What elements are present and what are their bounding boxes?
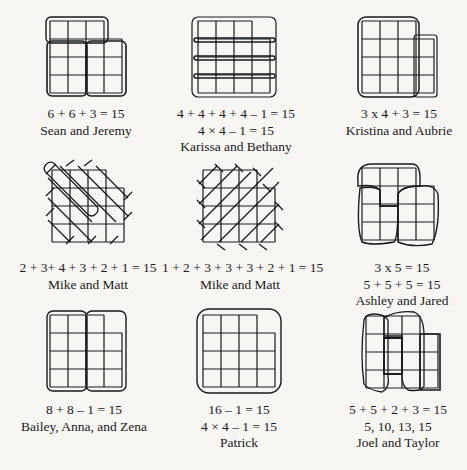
figure-sean-jeremy <box>46 17 126 96</box>
caption-sean-jeremy: 6 + 6 + 3 = 15 Sean and Jeremy <box>8 106 164 139</box>
caption-karissa-bethany: 4 + 4 + 4 + 4 – 1 = 15 4 × 4 – 1 = 15 Ka… <box>158 106 314 156</box>
equation: 4 × 4 – 1 = 15 <box>161 419 317 436</box>
caption-joel-taylor: 5 + 5 + 2 + 3 = 15 5, 10, 13, 15 Joel an… <box>320 402 467 452</box>
figure-mike-matt-1 <box>42 160 132 244</box>
equation: 6 + 6 + 3 = 15 <box>8 106 164 123</box>
student-names: Joel and Taylor <box>320 435 467 452</box>
student-names: Karissa and Bethany <box>158 139 314 156</box>
caption-bailey-anna-zena: 8 + 8 – 1 = 15 Bailey, Anna, and Zena <box>6 402 162 435</box>
student-names: Kristina and Aubrie <box>321 123 467 140</box>
equation: 5 + 5 + 5 = 15 <box>324 277 467 294</box>
equation: 3 x 4 + 3 = 15 <box>321 106 467 123</box>
figure-patrick <box>197 309 281 393</box>
equation: 4 × 4 – 1 = 15 <box>158 123 314 140</box>
figure-joel-taylor <box>362 312 440 392</box>
student-names: Mike and Matt <box>10 277 166 294</box>
equation: 3 x 5 = 15 <box>324 260 467 277</box>
student-names: Patrick <box>161 435 317 452</box>
figure-karissa-bethany <box>192 17 276 97</box>
figure-mike-matt-2 <box>197 164 283 250</box>
equation: 5 + 5 + 2 + 3 = 15 <box>320 402 467 419</box>
equation: 8 + 8 – 1 = 15 <box>6 402 162 419</box>
equation: 16 – 1 = 15 <box>161 402 317 419</box>
caption-kristina-aubrie: 3 x 4 + 3 = 15 Kristina and Aubrie <box>321 106 467 139</box>
caption-ashley-jared: 3 x 5 = 15 5 + 5 + 5 = 15 Ashley and Jar… <box>324 260 467 310</box>
equation: 4 + 4 + 4 + 4 – 1 = 15 <box>158 106 314 123</box>
equation: 2 + 3+ 4 + 3 + 2 + 1 = 15 <box>10 260 166 277</box>
figure-bailey-anna-zena <box>47 311 126 391</box>
student-names: Mike and Matt <box>162 277 318 294</box>
equation: 5, 10, 13, 15 <box>320 419 467 436</box>
figure-ashley-jared <box>358 164 439 246</box>
caption-patrick: 16 – 1 = 15 4 × 4 – 1 = 15 Patrick <box>161 402 317 452</box>
student-names: Sean and Jeremy <box>8 123 164 140</box>
caption-mike-matt-1: 2 + 3+ 4 + 3 + 2 + 1 = 15 Mike and Matt <box>10 260 166 293</box>
figure-kristina-aubrie <box>358 17 437 97</box>
student-names: Bailey, Anna, and Zena <box>6 419 162 436</box>
caption-mike-matt-2: 1 + 2 + 3 + 3 + 3 + 2 + 1 = 15 Mike and … <box>162 260 318 293</box>
diagram-canvas <box>0 0 467 470</box>
equation: 1 + 2 + 3 + 3 + 3 + 2 + 1 = 15 <box>162 260 318 277</box>
student-names: Ashley and Jared <box>324 293 467 310</box>
